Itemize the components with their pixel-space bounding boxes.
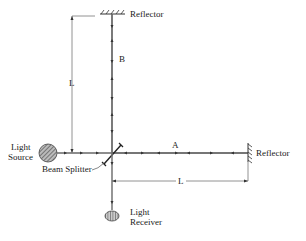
light-source-label-line2: Source <box>8 152 33 162</box>
right-reflector <box>248 143 252 163</box>
light-source-icon <box>39 144 57 162</box>
beam-a-label: A <box>172 140 179 150</box>
light-source-label-line1: Light <box>11 142 31 152</box>
interferometer-diagram: Reflector B L Light Source <box>0 0 306 241</box>
beam-splitter-label: Beam Splitter <box>42 164 92 174</box>
right-reflector-label: Reflector <box>256 148 289 158</box>
top-reflector-label: Reflector <box>130 9 163 19</box>
light-receiver-label-line1: Light <box>130 207 150 217</box>
top-reflector <box>100 10 125 14</box>
right-reflector-hatch <box>248 144 252 163</box>
light-receiver-label-line2: Receiver <box>130 217 162 227</box>
beam-b-label: B <box>119 54 125 64</box>
light-receiver-icon <box>105 211 119 221</box>
beam-splitter-leader <box>92 163 104 170</box>
diagram-svg: Reflector B L Light Source <box>0 0 306 241</box>
vertical-length-label: L <box>69 78 75 88</box>
beam-a <box>112 153 248 154</box>
horizontal-length-label: L <box>178 176 184 186</box>
top-reflector-hatch <box>101 10 124 14</box>
